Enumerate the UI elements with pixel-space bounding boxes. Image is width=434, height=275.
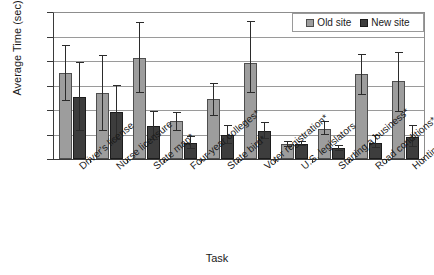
error-bar-cap-top [358,54,366,55]
error-bar-cap-top [150,111,158,112]
error-bar-cap-top [99,55,107,56]
x-tick-label: Starting a business* [336,163,343,171]
bar-chart: Average Time (sec) 050100150200250300 Ol… [0,0,434,275]
error-bar-cap-bottom [136,92,144,93]
error-bar [250,21,251,93]
error-bar-cap-bottom [187,148,195,149]
y-tick-mark [47,110,53,111]
y-tick-mark [47,159,53,160]
y-tick-mark [47,37,53,38]
y-tick-mark [47,86,53,87]
bar-column [73,12,86,159]
error-bar [213,83,214,116]
y-tick-mark [47,61,53,62]
error-bar-cap-bottom [335,150,343,151]
chart-legend: Old site New site [292,13,424,32]
error-bar-cap-top [113,85,121,86]
error-bar-cap-bottom [76,130,84,131]
error-bar-cap-bottom [372,147,380,148]
error-bar-cap-top [409,125,417,126]
legend-label-old-site: Old site [317,17,351,28]
error-bar [338,145,339,150]
error-bar [398,52,399,112]
error-bar-cap-top [136,22,144,23]
x-tick-label: Hunting license* [410,163,417,171]
error-bar [139,22,140,94]
error-bar [176,112,177,131]
error-bar-cap-top [395,52,403,53]
error-bar-cap-bottom [62,100,70,101]
x-tick-label: Driver's license [77,163,84,171]
error-bar [102,55,103,131]
error-bar [361,54,362,96]
error-bar-cap-bottom [99,130,107,131]
y-tick-mark [47,135,53,136]
error-bar-cap-top [210,83,218,84]
error-bar-cap-bottom [173,130,181,131]
legend-label-new-site: New site [371,17,409,28]
x-tick-label: Voter registration* [262,163,269,171]
error-bar-cap-top [76,62,84,63]
legend-swatch-old-site [306,19,314,27]
x-axis-labels: Driver's licenseNurse licensureState map… [54,163,424,253]
legend-entry-old-site: Old site [306,17,351,28]
error-bar [65,45,66,101]
error-bar-cap-top [173,112,181,113]
bar-column [59,12,72,159]
y-axis-title: Average Time (sec) [11,0,23,123]
x-tick-label: Road conditions* [373,163,380,171]
x-tick-label: State map* [151,163,158,171]
error-bar-cap-top [261,122,269,123]
x-tick-label: U.S. legislators [299,163,306,171]
x-tick-label: Nurse licensure [114,163,121,171]
error-bar [79,62,80,131]
bar-group [54,12,91,159]
x-tick-label: State bird* [225,163,232,171]
legend-entry-new-site: New site [360,17,409,28]
y-tick-mark [47,12,53,13]
error-bar-cap-bottom [210,115,218,116]
error-bar-cap-bottom [358,94,366,95]
legend-swatch-new-site [360,19,368,27]
error-bar-cap-bottom [321,134,329,135]
error-bar-cap-top [224,125,232,126]
error-bar-cap-top [62,45,70,46]
error-bar-cap-bottom [247,92,255,93]
x-tick-label: Four-year colleges* [188,163,195,171]
error-bar-cap-top [247,21,255,22]
x-axis-title: Task [0,252,434,264]
